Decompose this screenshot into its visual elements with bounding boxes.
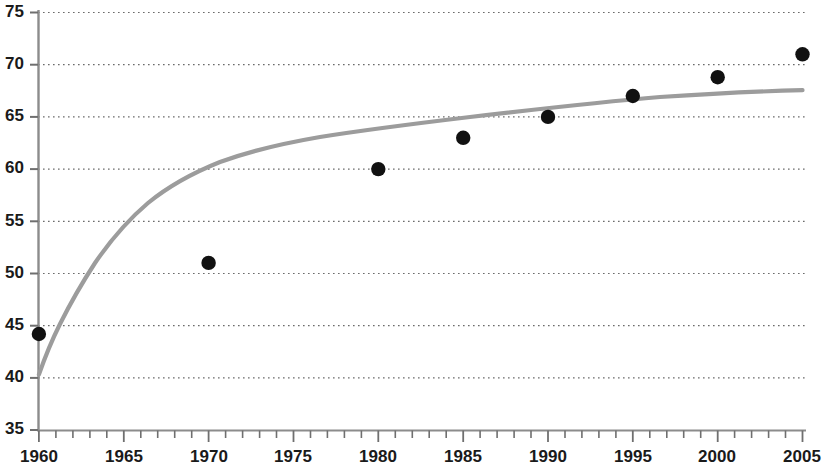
x-axis-major-ticks [39, 431, 803, 443]
y-axis-ticks [30, 13, 38, 431]
x-axis-label-1980: 1980 [348, 447, 408, 467]
x-axis-label-1995: 1995 [603, 447, 663, 467]
gridlines [38, 13, 805, 378]
y-axis-label-40: 40 [0, 367, 24, 387]
x-axis-label-1975: 1975 [263, 447, 323, 467]
x-axis-minor-ticks [56, 431, 786, 439]
chart-plot-area [0, 0, 823, 470]
data-point-1995 [626, 89, 640, 103]
y-axis-label-50: 50 [0, 263, 24, 283]
data-point-1960 [32, 327, 46, 341]
data-point-1970 [201, 256, 215, 270]
y-axis-label-45: 45 [0, 315, 24, 335]
axes [37, 10, 806, 431]
x-axis-label-1990: 1990 [518, 447, 578, 467]
x-axis-label-1965: 1965 [94, 447, 154, 467]
data-point-2000 [711, 70, 725, 84]
y-axis-label-75: 75 [0, 2, 24, 22]
x-axis-label-1985: 1985 [433, 447, 493, 467]
data-points [32, 47, 810, 341]
x-axis-label-1970: 1970 [179, 447, 239, 467]
y-axis-label-55: 55 [0, 211, 24, 231]
data-point-1980 [371, 162, 385, 176]
data-point-1985 [456, 131, 470, 145]
x-axis-label-2000: 2000 [687, 447, 747, 467]
data-point-2005 [795, 47, 809, 61]
data-point-1990 [541, 110, 555, 124]
y-axis-label-65: 65 [0, 106, 24, 126]
scatter-chart: 75 70 65 60 55 50 45 40 35 1960 1965 197… [0, 0, 823, 470]
fitted-curve [39, 90, 803, 375]
y-axis-label-70: 70 [0, 54, 24, 74]
y-axis-label-35: 35 [0, 419, 24, 439]
y-axis-label-60: 60 [0, 158, 24, 178]
x-axis-label-1960: 1960 [9, 447, 69, 467]
x-axis-label-2005: 2005 [772, 447, 823, 467]
